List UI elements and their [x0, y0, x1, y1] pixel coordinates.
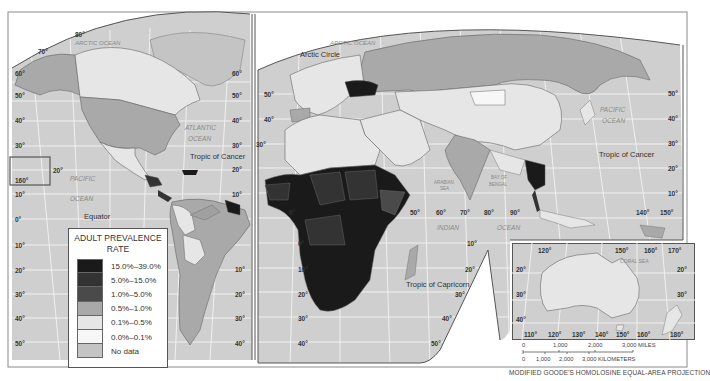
svg-text:180°: 180°: [670, 331, 684, 338]
legend-item: 0.1%–0.5%: [77, 316, 161, 330]
legend-swatch: [77, 273, 103, 287]
svg-text:CORAL SEA: CORAL SEA: [620, 258, 649, 264]
legend-item: 5.0%–15.0%: [77, 273, 161, 287]
label-tropic-cancer-w: Tropic of Cancer: [190, 152, 246, 161]
svg-text:170°: 170°: [668, 247, 682, 254]
svg-text:70°: 70°: [460, 209, 470, 216]
label-tropic-capricorn: Tropic of Capricorn: [406, 280, 470, 289]
svg-text:50°: 50°: [668, 90, 678, 97]
svg-text:20°: 20°: [677, 266, 687, 273]
legend-swatch: [77, 302, 103, 316]
svg-text:10°: 10°: [235, 266, 245, 273]
legend-swatch: [77, 316, 103, 330]
svg-text:40°: 40°: [232, 117, 242, 124]
svg-text:30°: 30°: [677, 291, 687, 298]
label-arctic-circle: Arctic Circle: [300, 50, 340, 59]
svg-text:BENGAL: BENGAL: [489, 182, 508, 187]
svg-text:30°: 30°: [298, 315, 308, 322]
svg-text:PACIFIC: PACIFIC: [600, 106, 625, 113]
legend-swatch: [77, 259, 103, 273]
legend-swatch: [77, 330, 103, 344]
svg-text:70°: 70°: [38, 48, 48, 55]
svg-text:20°: 20°: [15, 267, 25, 274]
svg-text:30°: 30°: [455, 291, 465, 298]
svg-text:140°: 140°: [636, 209, 650, 216]
legend-items: 15.0%–39.0% 5.0%–15.0% 1.0%–5.0% 0.5%–1.…: [77, 259, 161, 358]
svg-text:OCEAN: OCEAN: [497, 224, 520, 231]
svg-text:30°: 30°: [232, 142, 242, 149]
svg-text:PACIFIC: PACIFIC: [70, 175, 95, 182]
svg-text:OCEAN: OCEAN: [188, 135, 211, 142]
svg-text:10°: 10°: [15, 242, 25, 249]
legend: ADULT PREVALENCE RATE 15.0%–39.0% 5.0%–1…: [68, 228, 168, 368]
svg-text:30°: 30°: [668, 140, 678, 147]
svg-text:40°: 40°: [264, 116, 274, 123]
svg-text:80°: 80°: [484, 209, 494, 216]
svg-text:120°: 120°: [548, 331, 562, 338]
svg-text:20°: 20°: [465, 266, 475, 273]
svg-text:150°: 150°: [615, 247, 629, 254]
svg-text:130°: 130°: [572, 331, 586, 338]
legend-item: 15.0%–39.0%: [77, 259, 161, 273]
legend-item: 0.5%–1.0%: [77, 302, 161, 316]
svg-text:30°: 30°: [15, 291, 25, 298]
svg-text:ATLANTIC: ATLANTIC: [184, 124, 216, 131]
svg-text:3,000 MILES: 3,000 MILES: [622, 342, 656, 348]
svg-text:50°: 50°: [232, 92, 242, 99]
svg-text:60°: 60°: [436, 209, 446, 216]
svg-text:SEA: SEA: [440, 186, 449, 191]
svg-text:120°: 120°: [538, 247, 552, 254]
svg-text:OCEAN: OCEAN: [602, 117, 625, 124]
svg-text:40°: 40°: [668, 115, 678, 122]
svg-text:60°: 60°: [15, 70, 25, 77]
svg-text:20°: 20°: [235, 291, 245, 298]
projection-note: MODIFIED GOODE'S HOMOLOSINE EQUAL-AREA P…: [509, 369, 710, 376]
svg-text:160°: 160°: [637, 331, 651, 338]
legend-item: No data: [77, 344, 161, 358]
legend-swatch: [77, 344, 103, 358]
svg-text:3,000 KILOMETERS: 3,000 KILOMETERS: [582, 356, 636, 362]
svg-text:140°: 140°: [595, 331, 609, 338]
scale-bar: 0 1,000 2,000 3,000 MILES 0 1,000 2,000 …: [515, 340, 695, 368]
svg-text:40°: 40°: [298, 340, 308, 347]
australia-inset: 120° 150° 160° 170° 20° 30° 40° 20° 30° …: [512, 243, 695, 340]
label-arctic-ocean-w: ARCTIC OCEAN: [74, 40, 121, 46]
svg-text:40°: 40°: [15, 117, 25, 124]
svg-text:40°: 40°: [442, 315, 452, 322]
svg-text:2,000: 2,000: [559, 356, 574, 362]
svg-text:50°: 50°: [410, 209, 420, 216]
svg-text:0: 0: [522, 342, 525, 348]
label-equator: Equator: [84, 212, 111, 221]
svg-text:0°: 0°: [289, 209, 296, 216]
svg-text:0: 0: [522, 356, 525, 362]
svg-text:160°: 160°: [644, 247, 658, 254]
svg-text:OCEAN: OCEAN: [70, 195, 93, 202]
svg-text:30°: 30°: [256, 141, 266, 148]
svg-text:2,000: 2,000: [588, 342, 603, 348]
svg-text:50°: 50°: [15, 92, 25, 99]
svg-text:0°: 0°: [15, 216, 22, 223]
svg-text:90°: 90°: [510, 209, 520, 216]
svg-text:40°: 40°: [516, 316, 526, 323]
svg-text:20°: 20°: [668, 165, 678, 172]
svg-text:30°: 30°: [235, 315, 245, 322]
svg-text:60°: 60°: [232, 70, 242, 77]
svg-text:20°: 20°: [53, 167, 63, 174]
svg-text:20°: 20°: [298, 291, 308, 298]
svg-text:ARABIAN: ARABIAN: [434, 180, 454, 185]
svg-text:INDIAN: INDIAN: [437, 224, 459, 231]
svg-text:160°: 160°: [15, 177, 29, 184]
svg-text:20°: 20°: [232, 166, 242, 173]
svg-text:80°: 80°: [75, 31, 85, 38]
svg-text:30°: 30°: [516, 291, 526, 298]
svg-text:10°: 10°: [232, 191, 242, 198]
svg-text:110°: 110°: [524, 331, 537, 338]
legend-swatch: [77, 287, 103, 301]
svg-text:1,000: 1,000: [553, 342, 568, 348]
svg-text:1,000: 1,000: [536, 356, 551, 362]
svg-text:20°: 20°: [516, 266, 526, 273]
svg-text:50°: 50°: [15, 340, 25, 347]
svg-text:BAY OF: BAY OF: [491, 175, 507, 180]
svg-text:10°: 10°: [668, 190, 678, 197]
svg-text:10°: 10°: [15, 191, 25, 198]
